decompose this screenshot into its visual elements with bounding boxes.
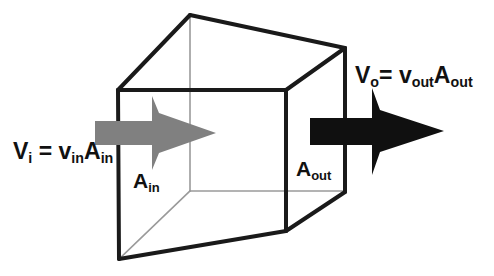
inflow-equation-label: Vi = vinAin [13,140,113,163]
outflow-V-symbol: V [355,62,370,88]
edge-front-left [118,90,119,259]
outflow-velocity-subscript: out [412,74,434,90]
outflow-area-subscript: out [450,74,472,90]
inflow-V-subscript: i [28,150,32,166]
outlet-area-label: Aout [296,158,331,179]
control-volume-diagram [0,0,494,276]
inflow-velocity-symbol: v [59,138,72,164]
outflow-area-symbol: A [434,62,451,88]
inlet-area-subscript: in [148,180,160,195]
inflow-V-symbol: V [13,138,28,164]
outflow-V-subscript: o [370,74,379,90]
inflow-area-symbol: A [84,138,101,164]
outflow-equation-label: Vo= voutAout [355,64,473,87]
inflow-velocity-subscript: in [71,150,84,166]
outlet-area-symbol: A [296,157,311,180]
inlet-area-symbol: A [133,169,148,192]
outflow-velocity-symbol: v [399,62,412,88]
inlet-area-label: Ain [133,170,160,191]
outlet-area-subscript: out [311,168,331,183]
outflow-equals-sign: = [379,62,392,88]
inflow-equals-sign: = [39,138,52,164]
inflow-area-subscript: in [101,150,114,166]
